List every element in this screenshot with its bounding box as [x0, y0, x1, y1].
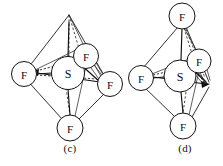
- atom-label-f-front: F: [83, 51, 89, 63]
- atom-label-s: S: [65, 67, 72, 81]
- atom-f-front-d: F: [187, 49, 211, 73]
- atom-f-top-d: F: [169, 3, 195, 29]
- edge-d-top-front: [184, 28, 197, 51]
- atom-label-f-left: F: [21, 69, 27, 81]
- caption-panel-d: (d): [165, 142, 205, 154]
- atom-f-left-d: F: [129, 66, 154, 91]
- atom-label-f-front-d: F: [196, 56, 202, 68]
- atom-label-f-top: F: [179, 11, 185, 23]
- panel-d-geometry: F S F F F: [129, 3, 212, 139]
- caption-panel-c: (c): [50, 142, 90, 154]
- edge-d-left-bottom: [142, 85, 175, 117]
- edge-d-back-bottom-dashed: [183, 92, 186, 113]
- atom-label-f-bottom-d: F: [180, 121, 186, 133]
- figure-root: S F F F F: [0, 0, 223, 166]
- atom-f-bottom-d: F: [170, 113, 196, 139]
- atom-f-bottom-c: F: [57, 115, 83, 141]
- atom-f-front-c: F: [74, 44, 99, 69]
- bond-d-s-bottom: [181, 92, 183, 113]
- panel-c-geometry: S F F F F: [12, 15, 123, 141]
- bond-d-s-top: [181, 28, 182, 60]
- atom-f-left-c: F: [12, 62, 37, 87]
- atom-label-s-d: S: [177, 70, 184, 84]
- atom-label-f-right: F: [107, 79, 113, 91]
- atom-label-f-bottom: F: [67, 123, 73, 135]
- atom-f-right-c: F: [98, 72, 123, 97]
- atom-label-f-left-d: F: [138, 73, 144, 85]
